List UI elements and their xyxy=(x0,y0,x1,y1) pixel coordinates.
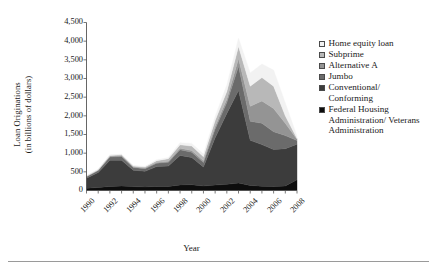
legend-item-label-continuation: Conforming xyxy=(329,93,381,104)
x-axis-tick-label: 1996 xyxy=(145,197,167,219)
legend-swatch-icon xyxy=(319,63,325,69)
legend-item-label: Subprime xyxy=(329,49,364,60)
x-axis-tick-label: 1998 xyxy=(168,197,190,219)
legend-swatch-icon xyxy=(319,41,325,47)
legend-swatch-icon xyxy=(319,107,325,113)
chart-legend: Home equity loanSubprimeAlternative AJum… xyxy=(319,38,437,136)
legend-item-label-continuation: Administration/ Veterans Administration xyxy=(329,115,437,136)
x-axis-tick-label: 2002 xyxy=(215,197,237,219)
x-axis-tick-label: 2000 xyxy=(192,197,214,219)
legend-item[interactable]: Home equity loan xyxy=(319,38,437,49)
chart-figure: Loan Originations (in billions of dollar… xyxy=(0,0,437,270)
legend-swatch-icon xyxy=(319,52,325,58)
x-axis-title: Year xyxy=(86,243,297,253)
legend-item-label: Conventional/Conforming xyxy=(329,82,381,103)
legend-item[interactable]: Conventional/Conforming xyxy=(319,82,437,103)
x-axis-tick-label: 1992 xyxy=(98,197,120,219)
x-axis-tick-label: 1990 xyxy=(75,197,97,219)
x-axis-tick-label: 2006 xyxy=(262,197,284,219)
legend-item[interactable]: Jumbo xyxy=(319,71,437,82)
x-axis-tick-label: 2008 xyxy=(285,197,307,219)
legend-item-label: Alternative A xyxy=(329,60,378,71)
legend-item-label: Home equity loan xyxy=(329,38,394,49)
legend-item-label: Jumbo xyxy=(329,71,353,82)
bottom-divider-rule xyxy=(8,261,429,262)
legend-swatch-icon xyxy=(319,74,325,80)
legend-item[interactable]: Federal HousingAdministration/ Veterans … xyxy=(319,104,437,136)
x-axis-tick-label: 2004 xyxy=(239,197,261,219)
x-axis-tick-label: 1994 xyxy=(122,197,144,219)
legend-swatch-icon xyxy=(319,85,325,91)
legend-item-label: Federal HousingAdministration/ Veterans … xyxy=(329,104,437,136)
legend-item[interactable]: Alternative A xyxy=(319,60,437,71)
legend-item[interactable]: Subprime xyxy=(319,49,437,60)
